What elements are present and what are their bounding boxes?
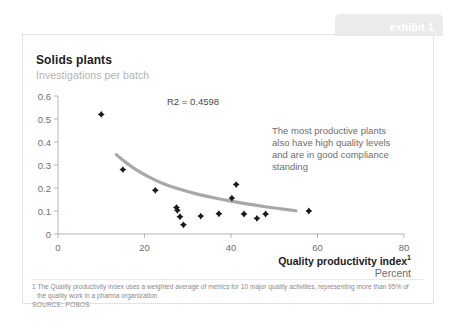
annotation-line: also have high quality levels — [272, 137, 391, 148]
svg-text:0.4: 0.4 — [38, 137, 51, 148]
svg-text:0: 0 — [46, 229, 51, 240]
svg-text:20: 20 — [139, 242, 150, 253]
data-point — [119, 166, 126, 173]
svg-text:0.3: 0.3 — [38, 160, 51, 171]
footnote-divider — [32, 279, 424, 280]
data-point — [152, 187, 159, 194]
data-point — [215, 210, 222, 217]
svg-text:0.1: 0.1 — [38, 206, 51, 217]
r-squared-label: R2 = 0.4598 — [167, 96, 219, 107]
annotation-line: and are in good compliance — [272, 149, 389, 160]
x-axis-title: Quality productivity index1 — [278, 254, 411, 267]
data-point — [177, 213, 184, 220]
exhibit-tab-label: exhibit 1 — [390, 21, 434, 33]
footnote: 1 The Quality productivity index uses a … — [32, 282, 426, 300]
x-axis-unit: Percent — [375, 267, 411, 279]
annotation-line: The most productive plants — [272, 125, 386, 136]
trendline — [116, 155, 295, 211]
data-point — [180, 221, 187, 228]
exhibit-card: Solids plants Investigations per batch 0… — [22, 34, 434, 304]
x-axis-title-footnote-marker: 1 — [407, 254, 411, 261]
svg-text:0.2: 0.2 — [38, 183, 51, 194]
data-point — [98, 111, 105, 118]
exhibit-tab: exhibit 1 — [335, 14, 443, 36]
footnote-line-1: 1 The Quality productivity index uses a … — [32, 283, 409, 290]
exhibit-page: exhibit 1 Solids plants Investigations p… — [0, 0, 457, 332]
annotations: R2 = 0.4598The most productive plantsals… — [167, 96, 391, 172]
footnote-line-2: the quality work in a pharma organizatio… — [32, 291, 426, 300]
data-point — [197, 213, 204, 220]
svg-text:0.6: 0.6 — [38, 91, 51, 102]
svg-text:0: 0 — [55, 242, 60, 253]
svg-text:40: 40 — [226, 242, 237, 253]
data-point — [262, 211, 269, 218]
data-point — [241, 211, 248, 218]
data-point — [233, 181, 240, 188]
annotation-line: standing — [272, 161, 308, 172]
data-point — [254, 215, 261, 222]
axes-layer — [54, 96, 404, 238]
svg-text:60: 60 — [312, 242, 323, 253]
svg-text:80: 80 — [399, 242, 410, 253]
svg-text:0.5: 0.5 — [38, 114, 51, 125]
axis-tick-labels: 00.10.20.30.40.50.6020406080 — [38, 91, 410, 254]
source-label: SOURCE: POBOS — [32, 301, 90, 308]
x-axis-title-text: Quality productivity index — [278, 255, 407, 267]
data-point — [305, 208, 312, 215]
